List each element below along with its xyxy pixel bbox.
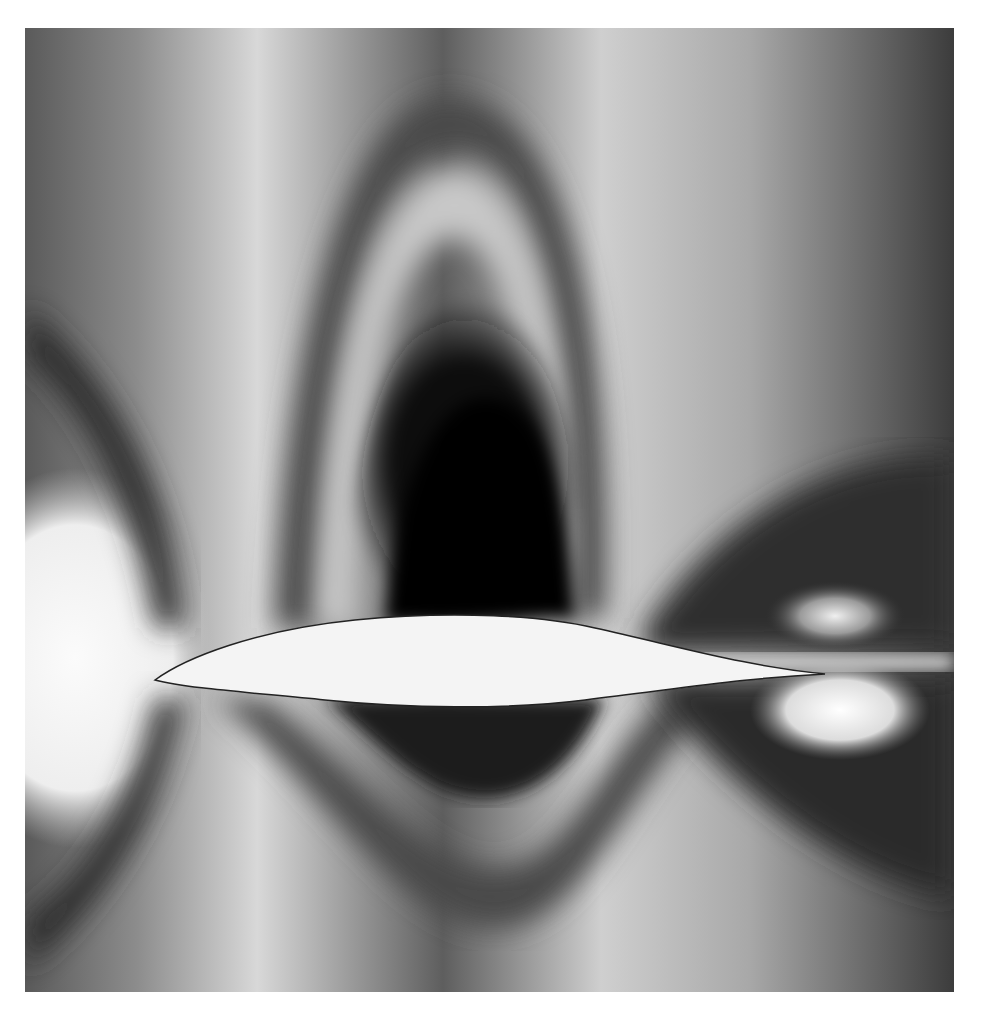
airfoil-flow-contour-image [25, 28, 954, 992]
flow-field-graphic [25, 28, 954, 992]
wake-upper-vortex [765, 581, 905, 651]
